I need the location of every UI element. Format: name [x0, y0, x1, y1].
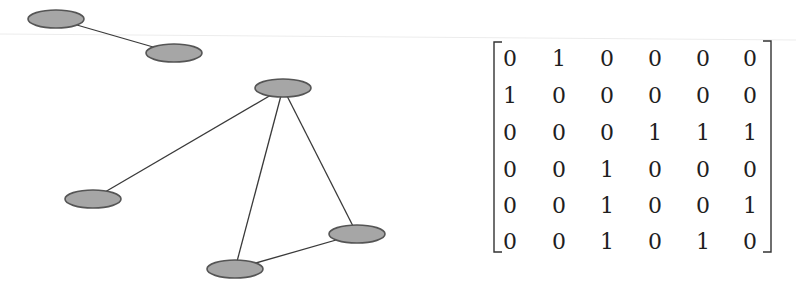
- matrix-cell-r1-c4: 0: [648, 46, 662, 71]
- graph-node-5: [329, 225, 385, 243]
- graph-node-1: [28, 10, 84, 28]
- graph-node-4: [65, 190, 121, 208]
- matrix-cell-r6-c5: 1: [696, 229, 710, 254]
- graph-node-2: [146, 44, 202, 62]
- matrix-cell-r6-c4: 0: [648, 229, 662, 254]
- matrix-cell-r3-c1: 0: [503, 120, 517, 145]
- matrix-cell-r3-c3: 0: [600, 120, 614, 145]
- matrix-cell-r4-c2: 0: [552, 157, 566, 182]
- graph-edge-3-4: [93, 88, 283, 199]
- matrix-cell-r2-c1: 1: [503, 83, 517, 108]
- matrix-cell-r5-c3: 1: [600, 193, 614, 218]
- adjacency-diagram: 010000100000000111001000001001001010: [0, 0, 796, 281]
- matrix-cell-r5-c2: 0: [552, 193, 566, 218]
- matrix-cell-r4-c6: 0: [743, 157, 757, 182]
- matrix-right-bracket: [763, 41, 771, 252]
- matrix-cell-r2-c4: 0: [648, 83, 662, 108]
- graph-node-6: [207, 260, 263, 278]
- matrix-cell-r6-c2: 0: [552, 229, 566, 254]
- matrix-cell-r5-c4: 0: [648, 193, 662, 218]
- matrix-cell-r2-c6: 0: [743, 83, 757, 108]
- matrix-cell-r6-c6: 0: [743, 229, 757, 254]
- matrix-cell-r4-c1: 0: [503, 157, 517, 182]
- matrix-cell-r5-c5: 0: [696, 193, 710, 218]
- matrix-cell-r1-c3: 0: [600, 46, 614, 71]
- matrix-cell-r5-c1: 0: [503, 193, 517, 218]
- matrix-cell-r6-c3: 1: [600, 229, 614, 254]
- matrix-cell-r1-c6: 0: [743, 46, 757, 71]
- matrix-cell-r3-c2: 0: [552, 120, 566, 145]
- matrix-cell-r1-c2: 1: [552, 46, 566, 71]
- matrix-cell-r1-c1: 0: [503, 46, 517, 71]
- matrix-cell-r2-c5: 0: [696, 83, 710, 108]
- matrix-cell-r5-c6: 1: [743, 193, 757, 218]
- graph-edge-3-6: [235, 88, 283, 269]
- matrix-cell-r4-c5: 0: [696, 157, 710, 182]
- matrix-cells: 010000100000000111001000001001001010: [503, 46, 757, 254]
- graph-nodes: [28, 10, 385, 278]
- matrix-cell-r3-c5: 1: [696, 120, 710, 145]
- matrix-left-bracket: [494, 42, 502, 252]
- adjacency-matrix: 010000100000000111001000001001001010: [494, 41, 771, 254]
- matrix-cell-r6-c1: 0: [503, 229, 517, 254]
- matrix-cell-r2-c3: 0: [600, 83, 614, 108]
- graph-edges: [56, 19, 357, 269]
- matrix-cell-r3-c4: 1: [648, 120, 662, 145]
- graph-node-3: [255, 79, 311, 97]
- matrix-cell-r4-c3: 1: [600, 157, 614, 182]
- graph-edge-3-5: [283, 88, 357, 234]
- matrix-cell-r3-c6: 1: [743, 120, 757, 145]
- matrix-cell-r1-c5: 0: [696, 46, 710, 71]
- matrix-cell-r4-c4: 0: [648, 157, 662, 182]
- matrix-cell-r2-c2: 0: [552, 83, 566, 108]
